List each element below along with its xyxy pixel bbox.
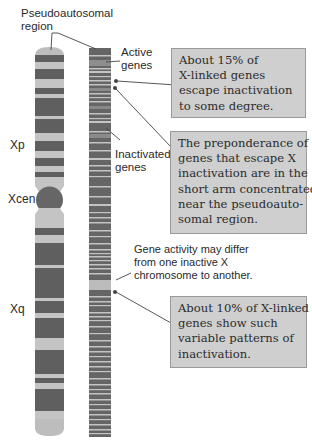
chromosome-band [35,235,64,243]
gene-stripe [89,134,111,138]
callout-line: somal region. [178,212,300,227]
gene-stripe [89,371,111,372]
callout-line: near the pseudoauto- [178,197,300,212]
leader-preponderance [116,89,171,147]
chromosome-band [35,98,64,116]
x-chromosome-ideogram [35,47,64,436]
gene-stripe [89,296,111,298]
callout-line: inactivation. [178,347,300,362]
chromosome-band [35,298,64,301]
label-variable-note-line1: Gene activity may differ [134,243,253,256]
gene-stripe [89,150,111,152]
label-xq: Xq [10,303,25,316]
gene-stripe [89,236,111,237]
chromosome-band [35,318,64,338]
gene-stripe [89,280,111,290]
callout-line: genes show such [178,316,300,331]
label-active-genes-line2: genes [121,59,152,72]
gene-stripe [89,326,111,328]
gene-stripe [89,356,111,357]
gene-stripe [89,131,111,133]
gene-stripe [89,165,111,167]
gene-stripe [89,93,111,95]
gene-stripe [89,55,111,57]
gene-stripe [89,217,111,219]
gene-stripe [89,399,111,401]
gene-stripe [89,204,111,206]
gene-stripe [89,389,111,390]
leader-dot-variable-10 [113,290,117,294]
chromosome-band [35,172,64,177]
callout-line: The preponderance of [178,136,300,151]
label-inactivated-genes: Inactivated genes [115,148,171,174]
label-xcen: Xcen [8,193,35,206]
label-pseudoautosomal-line2: region [21,20,113,33]
leader-dot-escape-15 [114,79,118,83]
gene-stripe [89,268,111,270]
label-xp: Xp [10,139,25,152]
gene-stripe [89,333,111,334]
gene-stripe [89,222,111,224]
chromosome-band [35,94,64,98]
callout-line: genes that escape X [178,151,300,166]
gene-stripe [89,101,111,103]
gene-stripe [89,316,111,318]
gene-stripe [89,301,111,303]
gene-stripe [89,230,111,232]
gene-stripe [89,243,111,245]
gene-stripe [89,196,111,198]
leader-escape-15 [117,81,176,85]
chromosome-band [35,158,64,166]
gene-stripe [89,305,111,306]
label-inactivated-genes-line2: genes [115,161,171,174]
gene-stripe [89,419,111,420]
gene-stripe [89,249,111,251]
chromosome-band [35,338,64,350]
gene-stripe [89,346,111,348]
gene-stripe [89,113,111,115]
chromosome-band [35,389,64,411]
callout-line: About 15% of [179,53,299,68]
label-variable-note-line3: chromosome to another. [134,269,253,282]
gene-stripe [89,340,111,342]
callout-line: variable patterns of [178,331,300,346]
gene-stripe [89,170,111,172]
chromosome-band [35,141,64,151]
label-variable-note: Gene activity may differ from one inacti… [134,243,253,282]
telomere-q [35,419,64,436]
chromosome-band [35,177,64,183]
chromosome-band [35,79,64,88]
label-pseudoautosomal-line1: Pseudoautosomal [21,7,113,20]
gene-stripe [89,88,111,91]
chromosome-band [35,268,64,298]
chromosome-band [35,166,64,172]
gene-stripe [89,212,111,213]
gene-stripe [89,351,111,353]
chromosome-band [35,411,64,419]
gene-stripe [89,414,111,416]
gene-stripe [89,361,111,363]
chromosome-band [35,301,64,313]
gene-stripe [89,366,111,368]
gene-stripe [89,273,111,275]
gene-stripe [89,312,111,314]
label-active-genes: Active genes [121,46,152,72]
chromosome-band [35,350,64,374]
chromosome-band [35,313,64,318]
callout-line: escape inactivation [179,83,299,98]
gene-stripe [89,142,111,144]
callout-line: inactivation are in the [178,166,300,181]
gene-stripe [89,80,111,82]
chromosome-band [35,69,64,79]
gene-stripe [89,118,111,119]
gene-stripe [89,186,111,188]
label-variable-note-line2: from one inactive X [134,256,253,269]
gene-stripe [89,60,111,66]
gene-stripe [89,433,111,434]
leader-variable-note [116,273,131,280]
chromosome-band [35,378,64,383]
leader-variable-10 [116,292,171,323]
chromosome-band [35,55,64,62]
callout-line: to some degree. [179,99,299,114]
callout-preponderance: The preponderance of genes that escape X… [170,131,307,234]
